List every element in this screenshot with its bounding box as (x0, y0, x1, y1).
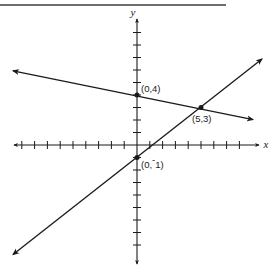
point-marker-5-3 (199, 105, 204, 110)
x-axis-label: x (263, 138, 269, 150)
point-label-0-neg1-suffix: 1) (155, 159, 163, 170)
point-label-0-neg1-prefix: (0, (141, 159, 152, 170)
point-label-0-neg1: (0,-1) (141, 154, 164, 171)
point-label-5-3: (5,3) (192, 113, 212, 124)
point-marker-0-4 (135, 93, 140, 98)
y-axis-label: y (130, 6, 136, 18)
coordinate-plane-graph: x y (0,4) (5,3) (0,-1) (0, 0, 280, 274)
axes-group: x y (14, 6, 269, 264)
point-marker-0-neg1 (135, 155, 140, 160)
point-label-0-4: (0,4) (141, 83, 161, 94)
graph-figure: x y (0,4) (5,3) (0,-1) (0, 0, 280, 274)
line-1-negative-slope (13, 71, 253, 120)
